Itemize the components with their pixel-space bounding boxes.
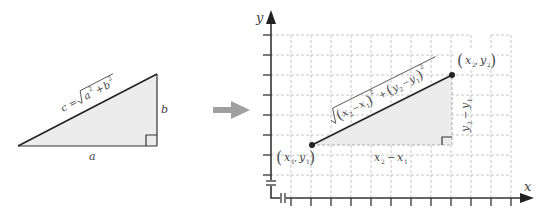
y-axis-label: y <box>255 10 264 25</box>
horizontal-leg-label: x 2 − x 1 <box>374 151 408 165</box>
p1-x: x <box>284 151 291 164</box>
p1-y: y <box>298 151 306 164</box>
paren-open: ( <box>276 148 282 167</box>
leg-v-y1: y <box>459 102 472 110</box>
point-2 <box>449 72 455 78</box>
leg-h-x2: x <box>374 151 381 164</box>
leg-v-y2: y <box>459 125 472 133</box>
point-1-label: ( x 1 , y 1 ) <box>276 148 315 167</box>
leg-v-sub1: 1 <box>466 98 473 102</box>
coordinate-plane: y x ( x 1 , y 1 ) ( x 2 , y 2 ) x 2 − <box>255 10 534 206</box>
leg-h-minus: − <box>387 152 395 163</box>
leg-h-sub1: 1 <box>404 158 408 165</box>
axis-corner <box>271 186 280 198</box>
arrow-shaft <box>213 107 233 113</box>
point-2-label: ( x 2 , y 2 ) <box>455 50 497 70</box>
side-a-label: a <box>89 150 96 163</box>
y-axis-arrow-icon <box>266 10 276 24</box>
left-triangle: c = a 2 + b 2 b a <box>18 73 168 163</box>
paren-close: ) <box>490 51 496 70</box>
comma: , <box>294 152 297 163</box>
arrow-head-icon <box>231 101 250 119</box>
label-equals: = <box>67 96 80 110</box>
x-axis-arrow-icon <box>520 193 534 203</box>
p2-y: y <box>479 54 487 67</box>
transition-arrow <box>213 101 250 119</box>
vertical-leg-label: y 2 − y 1 <box>459 98 473 133</box>
x-axis-ticks <box>291 198 511 206</box>
side-b-label: b <box>161 103 168 116</box>
paren-open: ( <box>457 51 463 70</box>
comma: , <box>475 55 478 66</box>
leg-v-minus: − <box>460 111 471 119</box>
paren-close: ) <box>309 148 315 167</box>
p2-x: x <box>465 54 472 67</box>
leg-h-x1: x <box>397 151 404 164</box>
leg-h-sub2: 2 <box>381 158 385 165</box>
leg-v-sub2: 2 <box>466 121 473 125</box>
y-axis-ticks <box>263 35 271 175</box>
pythagorean-distance-diagram: c = a 2 + b 2 b a <box>0 0 541 220</box>
x-axis-label: x <box>524 179 532 194</box>
